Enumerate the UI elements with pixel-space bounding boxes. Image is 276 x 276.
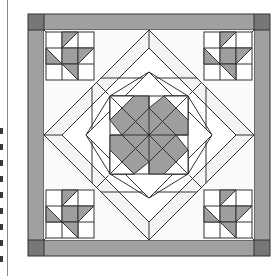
center-pinwheel-star — [110, 96, 188, 174]
quilt-group — [28, 14, 270, 256]
quilt-block-diagram — [12, 0, 276, 276]
border-corner-square-bottom-right — [254, 240, 270, 256]
border-corner-square-bottom-left — [28, 240, 44, 256]
block-center — [62, 206, 78, 222]
border-corner-square-top-right — [254, 14, 270, 30]
corner-star-block-bottom-left — [46, 190, 94, 238]
block-center — [62, 48, 78, 64]
page-margin-mark — [0, 256, 3, 262]
page-margin-mark — [0, 160, 3, 166]
quilt-block-figure — [12, 0, 276, 276]
corner-star-block-bottom-right — [204, 190, 252, 238]
page-margin-mark — [0, 128, 3, 134]
page-margin-mark — [0, 176, 3, 182]
page-margin-mark — [0, 208, 3, 214]
page-margin-mark — [0, 192, 3, 198]
block-center — [220, 206, 236, 222]
page-margin-rule — [7, 0, 8, 276]
corner-star-block-top-right — [204, 32, 252, 80]
border-corner-square-top-left — [28, 14, 44, 30]
page-margin-mark — [0, 144, 3, 150]
corner-star-block-top-left — [46, 32, 94, 80]
page-canvas — [0, 0, 276, 276]
page-margin-mark — [0, 224, 3, 230]
page-margin-mark — [0, 240, 3, 246]
block-center — [220, 48, 236, 64]
page-margin-marks — [0, 128, 4, 268]
